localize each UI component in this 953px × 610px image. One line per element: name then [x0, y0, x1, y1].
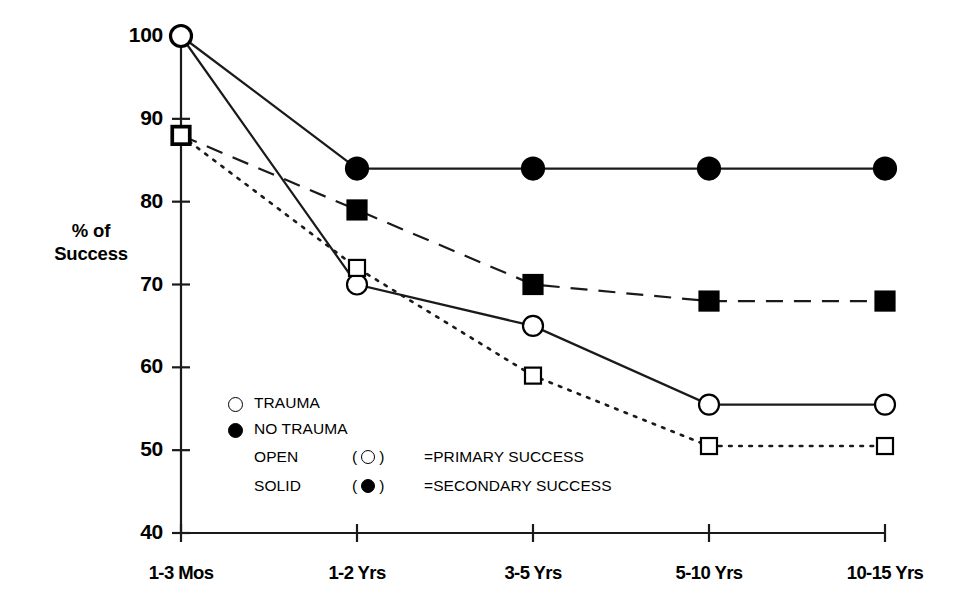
y-axis-tick-label: 40: [85, 520, 163, 544]
legend-definition-row: SOLID()=SECONDARY SUCCESS: [228, 473, 668, 502]
data-point-marker-filled-square: [876, 292, 895, 311]
data-point-marker-filled-square: [524, 275, 543, 294]
data-point-marker-open-square: [877, 438, 893, 454]
data-point-marker-open-circle: [699, 395, 719, 415]
open-paren: (: [352, 448, 357, 465]
x-axis-tick-label: 1-3 Mos: [96, 562, 266, 584]
x-axis-tick-label: 5-10 Yrs: [624, 562, 794, 584]
legend-definition-text: =PRIMARY SUCCESS: [424, 448, 584, 466]
data-point-marker-open-square: [349, 260, 365, 276]
data-point-marker-filled-circle: [522, 158, 544, 180]
data-point-marker-filled-circle: [346, 158, 368, 180]
y-axis-tick-label: 50: [85, 437, 163, 461]
filled-circle-icon: [228, 423, 243, 438]
data-series-group: [170, 25, 896, 454]
legend-label: NO TRAUMA: [254, 420, 348, 438]
legend-definition-word: SOLID: [254, 477, 301, 495]
chart-plot-area: [0, 0, 953, 610]
legend-row: NO TRAUMA: [228, 418, 668, 444]
open-paren: (: [352, 477, 357, 494]
legend-row: TRAUMA: [228, 392, 668, 418]
data-point-marker-open-circle: [171, 26, 191, 46]
x-axis-tick-label: 3-5 Yrs: [448, 562, 618, 584]
legend-definition-rows: OPEN()=PRIMARY SUCCESSSOLID()=SECONDARY …: [228, 444, 668, 502]
data-point-marker-filled-circle: [698, 158, 720, 180]
data-point-marker-filled-circle: [874, 158, 896, 180]
close-paren: ): [379, 477, 384, 494]
legend-marker-rows: TRAUMANO TRAUMA: [228, 392, 668, 444]
close-paren: ): [379, 448, 384, 465]
legend-definition-marker-group: (): [352, 448, 384, 466]
y-axis-tick-label: 60: [85, 354, 163, 378]
data-point-marker-open-square: [173, 127, 189, 143]
data-point-marker-open-circle: [875, 395, 895, 415]
legend-definition-row: OPEN()=PRIMARY SUCCESS: [228, 444, 668, 473]
series-line: [181, 36, 885, 405]
x-axis-tick-label: 1-2 Yrs: [272, 562, 442, 584]
x-axis-tick-label: 10-15 Yrs: [800, 562, 953, 584]
series-line: [181, 36, 885, 169]
chart-legend: TRAUMANO TRAUMA OPEN()=PRIMARY SUCCESSSO…: [228, 392, 668, 502]
data-point-marker-open-circle: [347, 275, 367, 295]
chart-container: 405060708090100 1-3 Mos1-2 Yrs3-5 Yrs5-1…: [0, 0, 953, 610]
legend-definition-text: =SECONDARY SUCCESS: [424, 477, 612, 495]
data-point-marker-open-circle: [523, 316, 543, 336]
data-point-marker-filled-square: [348, 200, 367, 219]
data-point-marker-open-square: [525, 368, 541, 384]
open-circle-icon: [361, 450, 375, 464]
y-axis-tick-label: 90: [85, 106, 163, 130]
open-circle-icon: [228, 397, 243, 412]
y-axis-title-line-1: % of: [30, 219, 152, 242]
filled-circle-icon: [361, 479, 375, 493]
legend-definition-word: OPEN: [254, 448, 298, 466]
y-axis-tick-label: 80: [85, 189, 163, 213]
y-axis-title: % of Success: [30, 219, 152, 265]
y-axis-tick-label: 100: [85, 23, 163, 47]
y-axis-tick-label: 70: [85, 272, 163, 296]
data-point-marker-filled-square: [700, 292, 719, 311]
legend-label: TRAUMA: [254, 394, 320, 412]
data-point-marker-open-square: [701, 438, 717, 454]
legend-definition-marker-group: (): [352, 477, 384, 495]
y-axis-title-line-2: Success: [30, 242, 152, 265]
